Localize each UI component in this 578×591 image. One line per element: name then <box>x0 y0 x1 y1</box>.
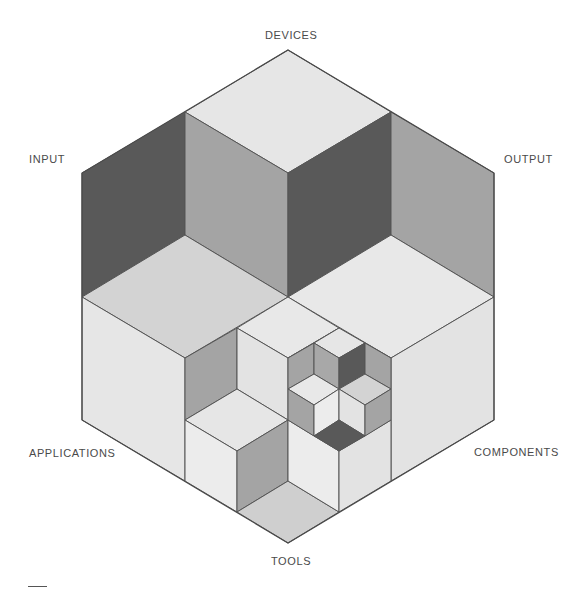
label-components: COMPONENTS <box>474 446 559 458</box>
label-output: OUTPUT <box>504 153 553 165</box>
footnote-rule <box>28 586 47 587</box>
hexagon-diagram: DEVICES INPUT OUTPUT APPLICATIONS COMPON… <box>0 0 578 591</box>
label-applications: APPLICATIONS <box>29 447 115 459</box>
label-devices: DEVICES <box>265 29 318 41</box>
cube-hexagon-graphic <box>0 0 578 591</box>
label-tools: TOOLS <box>271 555 311 567</box>
label-input: INPUT <box>29 153 65 165</box>
